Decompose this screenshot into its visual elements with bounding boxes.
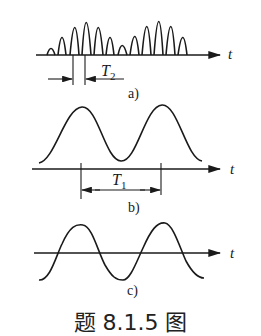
pulse-train	[47, 22, 187, 56]
panel-c: t c)	[34, 223, 235, 299]
figure-caption: 题 8.1.5 图	[0, 304, 261, 336]
panel-a: T2 t a)	[36, 22, 233, 103]
panel-label-c: c)	[127, 283, 138, 299]
sine-wave	[39, 223, 204, 280]
axis-label-c: t	[230, 245, 235, 261]
t1-label: T1	[112, 171, 126, 191]
axis-label-b: t	[230, 161, 235, 177]
panel-b: T1 t b)	[32, 105, 235, 216]
envelope-wave	[39, 105, 202, 163]
axis-label-a: t	[228, 46, 233, 62]
panel-label-a: a)	[128, 86, 139, 102]
panel-label-b: b)	[128, 200, 140, 216]
